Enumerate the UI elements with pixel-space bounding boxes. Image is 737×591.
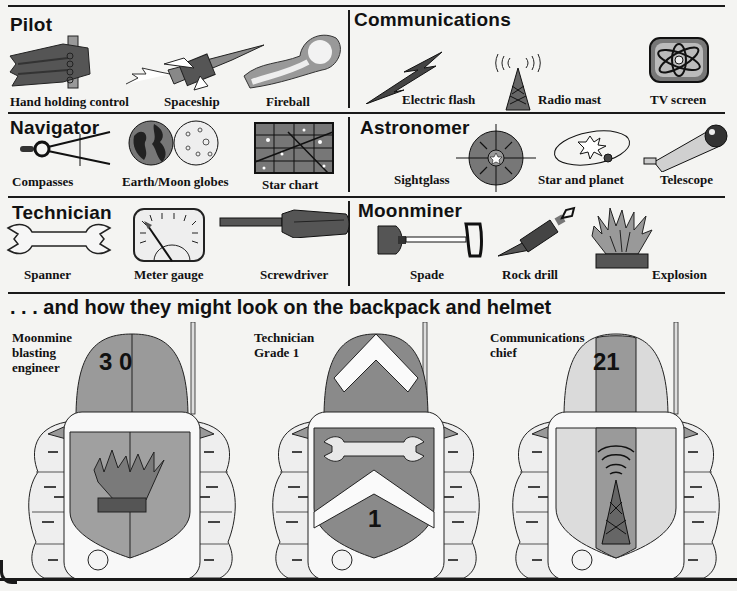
- star-chart-icon: [254, 122, 334, 174]
- spanner-icon: [4, 222, 114, 256]
- column-divider-1: [348, 10, 350, 108]
- rule-row-1: [8, 112, 725, 114]
- sightglass-icon: [456, 124, 536, 192]
- label-star-chart: Star chart: [262, 177, 318, 193]
- label-meter-gauge: Meter gauge: [134, 267, 203, 283]
- compasses-icon: [16, 130, 112, 166]
- tv-screen-icon: [648, 36, 710, 84]
- bottom-border: [0, 578, 737, 581]
- label-earth-moon-globes: Earth/Moon globes: [122, 174, 229, 190]
- section-title-moonminer: Moonminer: [358, 200, 462, 222]
- label-spaceship: Spaceship: [164, 94, 220, 110]
- section-title-pilot: Pilot: [10, 14, 52, 36]
- bottom-left-corner: [0, 560, 17, 584]
- label-star-and-planet: Star and planet: [538, 172, 624, 188]
- globes-icon: [126, 118, 222, 168]
- section-title-communications: Communications: [354, 9, 511, 31]
- label-tv-screen: TV screen: [650, 92, 706, 108]
- backpack-helmet-heading: . . . and how they might look on the bac…: [10, 296, 551, 319]
- telescope-icon: [640, 120, 730, 172]
- label-spanner: Spanner: [24, 267, 71, 283]
- spacesuit-technician: [258, 322, 494, 580]
- label-electric-flash: Electric flash: [402, 92, 475, 108]
- rule-row-2: [8, 196, 725, 198]
- label-spade: Spade: [410, 267, 444, 283]
- label-radio-mast: Radio mast: [538, 92, 601, 108]
- label-explosion: Explosion: [652, 267, 707, 283]
- meter-gauge-icon: [132, 207, 206, 263]
- label-telescope: Telescope: [660, 172, 713, 188]
- spade-icon: [376, 222, 484, 258]
- rock-drill-icon: [496, 206, 578, 258]
- screwdriver-icon: [218, 208, 350, 238]
- label-rock-drill: Rock drill: [502, 267, 558, 283]
- section-title-technician: Technician: [12, 202, 112, 224]
- column-divider-2: [348, 117, 350, 192]
- fireball-icon: [240, 26, 344, 92]
- hand-control-icon: [8, 34, 93, 92]
- label-compasses: Compasses: [12, 174, 73, 190]
- label-fireball: Fireball: [266, 94, 310, 110]
- label-screwdriver: Screwdriver: [260, 267, 328, 283]
- helmet-number-30: 3 0: [99, 348, 132, 376]
- section-title-astronomer: Astronomer: [360, 117, 470, 139]
- explosion-icon: [590, 206, 654, 272]
- label-sightglass: Sightglass: [394, 172, 450, 188]
- star-planet-icon: [552, 128, 634, 168]
- top-rule: [8, 5, 725, 7]
- label-hand-holding-control: Hand holding control: [10, 94, 129, 110]
- rule-row-3: [8, 292, 725, 294]
- shield-number-1: 1: [368, 505, 381, 533]
- helmet-number-21: 21: [593, 348, 620, 376]
